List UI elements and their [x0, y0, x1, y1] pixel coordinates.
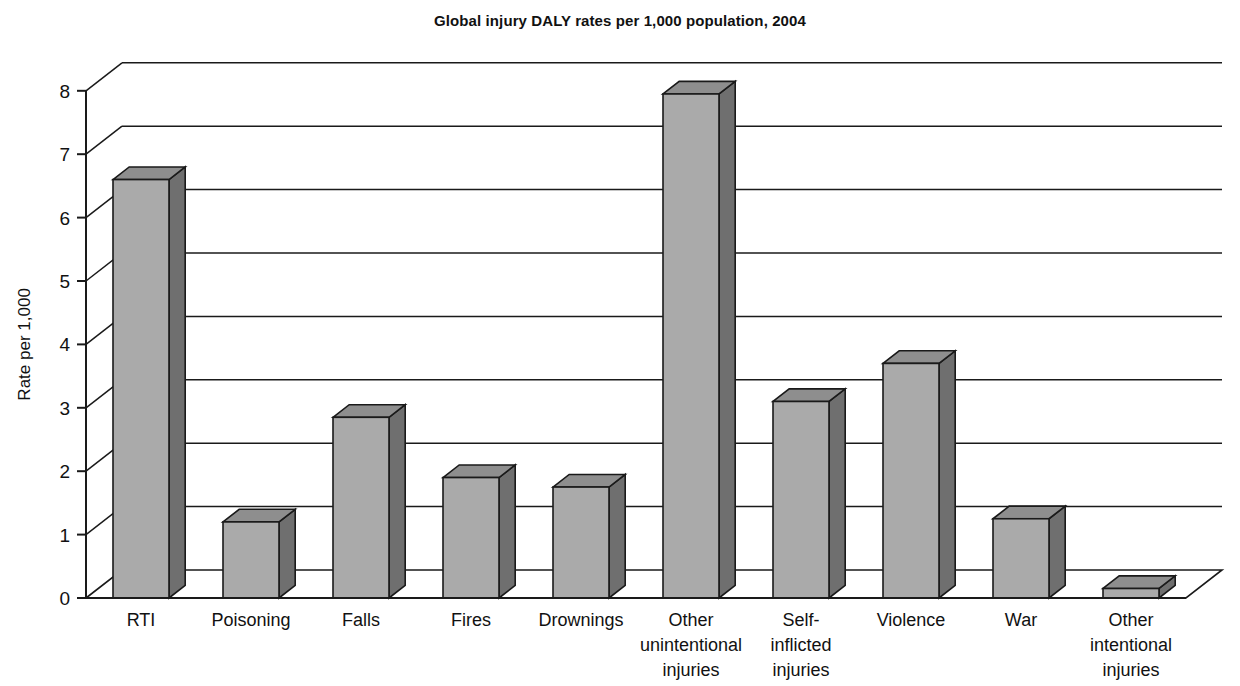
x-axis-label-4: Drownings	[538, 610, 623, 630]
bar-front-face	[773, 401, 829, 598]
bar-4	[553, 474, 625, 598]
y-tick-label: 7	[59, 144, 70, 165]
x-axis-label-2: Falls	[342, 610, 380, 630]
gridline-3	[86, 380, 1222, 408]
x-axis-label-line: Poisoning	[211, 610, 290, 630]
bar-front-face	[883, 363, 939, 598]
x-axis-label-8: War	[1005, 610, 1037, 630]
y-tick-label: 0	[59, 588, 70, 609]
y-axis-title: Rate per 1,000	[15, 288, 34, 400]
bar-side-face	[389, 405, 405, 598]
bar-side-face	[829, 389, 845, 598]
gridline-6	[86, 190, 1222, 218]
x-axis-label-line: Violence	[877, 610, 946, 630]
x-axis-label-line: intentional	[1090, 635, 1172, 655]
gridline-4	[86, 316, 1222, 344]
gridline-2	[86, 443, 1222, 471]
x-axis-label-line: unintentional	[640, 635, 742, 655]
bar-side-face	[499, 465, 515, 598]
bar-front-face	[443, 478, 499, 598]
x-axis-label-line: injuries	[662, 660, 719, 680]
bar-chart-plot: 012345678Rate per 1,000RTIPoisoningFalls…	[0, 0, 1240, 686]
gridline-7	[86, 126, 1222, 154]
bar-8	[993, 506, 1065, 598]
bar-front-face	[333, 417, 389, 598]
gridline-5	[86, 253, 1222, 281]
x-axis-label-line: Other	[668, 610, 713, 630]
x-axis-label-line: inflicted	[770, 635, 831, 655]
y-tick-label: 8	[59, 81, 70, 102]
bar-front-face	[113, 180, 169, 598]
x-axis-label-5: Otherunintentionalinjuries	[640, 610, 742, 680]
y-tick-label: 5	[59, 271, 70, 292]
x-axis-label-line: injuries	[1102, 660, 1159, 680]
bar-front-face	[553, 487, 609, 598]
x-axis-label-line: Fires	[451, 610, 491, 630]
y-tick-label: 6	[59, 208, 70, 229]
bar-side-face	[1049, 506, 1065, 598]
bar-3	[443, 465, 515, 598]
chart-container: Global injury DALY rates per 1,000 popul…	[0, 0, 1240, 686]
gridline-8	[86, 63, 1222, 91]
x-axis-label-line: Falls	[342, 610, 380, 630]
bar-0	[113, 167, 185, 598]
y-tick-label: 4	[59, 334, 70, 355]
x-axis-label-line: injuries	[772, 660, 829, 680]
x-axis-label-line: Self-	[782, 610, 819, 630]
x-axis-label-line: Drownings	[538, 610, 623, 630]
bar-front-face	[1103, 588, 1159, 598]
bar-9	[1103, 576, 1175, 598]
bar-7	[883, 351, 955, 598]
bar-1	[223, 509, 295, 598]
x-axis-label-line: War	[1005, 610, 1037, 630]
bar-side-face	[279, 509, 295, 598]
x-axis-label-0: RTI	[127, 610, 156, 630]
x-axis-label-3: Fires	[451, 610, 491, 630]
x-axis-label-6: Self-inflictedinjuries	[770, 610, 831, 680]
y-tick-label: 1	[59, 525, 70, 546]
bar-front-face	[663, 94, 719, 598]
x-axis-label-line: Other	[1108, 610, 1153, 630]
x-axis-label-line: RTI	[127, 610, 156, 630]
bar-side-face	[939, 351, 955, 598]
bar-2	[333, 405, 405, 598]
bar-side-face	[169, 167, 185, 598]
bar-5	[663, 81, 735, 598]
bar-front-face	[993, 519, 1049, 598]
bar-side-face	[609, 474, 625, 598]
x-axis-label-1: Poisoning	[211, 610, 290, 630]
y-tick-label: 2	[59, 461, 70, 482]
bar-6	[773, 389, 845, 598]
y-tick-label: 3	[59, 398, 70, 419]
x-axis-label-7: Violence	[877, 610, 946, 630]
x-axis-label-9: Otherintentionalinjuries	[1090, 610, 1172, 680]
bar-side-face	[719, 81, 735, 598]
bar-front-face	[223, 522, 279, 598]
